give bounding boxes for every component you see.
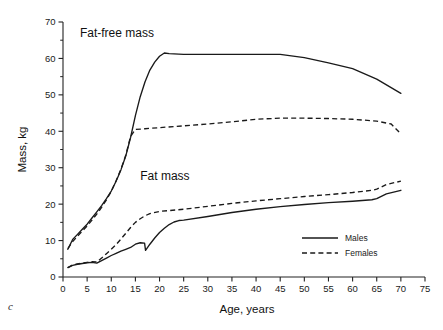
axis-ticks <box>59 22 426 282</box>
x-tick-label: 25 <box>178 283 189 294</box>
x-tick-label: 10 <box>106 283 117 294</box>
series-line-fat-free-mass-males <box>68 53 401 249</box>
x-tick-label: 50 <box>299 283 310 294</box>
annotation-fat-mass: Fat mass <box>140 169 189 183</box>
y-tick-label: 30 <box>45 162 56 173</box>
chart-legend: MalesFemales <box>302 233 378 258</box>
x-tick-label: 20 <box>154 283 165 294</box>
series-annotations: Fat-free massFat mass <box>80 26 190 184</box>
x-tick-label: 65 <box>371 283 382 294</box>
y-tick-label: 40 <box>45 126 56 137</box>
body-composition-chart: 0102030405060700510152025303540455055606… <box>0 0 443 330</box>
y-tick-label: 10 <box>45 235 56 246</box>
x-tick-label: 40 <box>251 283 262 294</box>
x-tick-label: 35 <box>227 283 238 294</box>
x-tick-label: 45 <box>275 283 286 294</box>
x-tick-label: 15 <box>130 283 141 294</box>
y-tick-label: 20 <box>45 199 56 210</box>
legend-label-females: Females <box>345 248 378 258</box>
y-tick-label: 70 <box>45 16 56 27</box>
legend-label-males: Males <box>345 233 368 243</box>
x-tick-label: 70 <box>396 283 407 294</box>
x-tick-label: 55 <box>323 283 334 294</box>
axes <box>63 22 425 277</box>
annotation-fat-free-mass: Fat-free mass <box>80 26 154 40</box>
y-axis-title: Mass, kg <box>16 126 28 172</box>
y-tick-label: 60 <box>45 53 56 64</box>
y-tick-label: 0 <box>50 271 55 282</box>
y-tick-label: 50 <box>45 89 56 100</box>
x-tick-label: 30 <box>203 283 214 294</box>
x-tick-label: 5 <box>84 283 89 294</box>
x-tick-label: 75 <box>420 283 431 294</box>
x-axis-title: Age, years <box>220 303 275 315</box>
figure-panel: 0102030405060700510152025303540455055606… <box>0 0 443 330</box>
panel-label: c <box>8 300 13 312</box>
x-tick-label: 0 <box>60 283 65 294</box>
x-tick-label: 60 <box>347 283 358 294</box>
series-line-fat-free-mass-females <box>68 118 401 248</box>
